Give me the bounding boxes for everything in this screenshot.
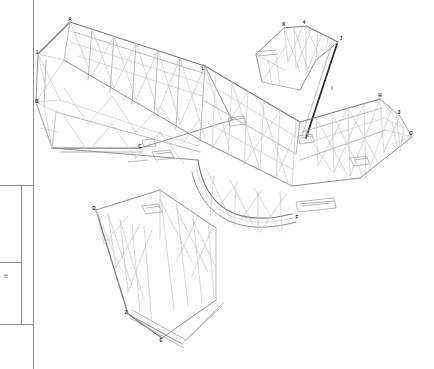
node-label-L: L: [202, 66, 205, 71]
node-label-B: B: [35, 99, 38, 104]
central-spine-assembly: [192, 66, 300, 232]
node-label-C: C: [138, 144, 141, 149]
node-label-K: K: [282, 22, 285, 27]
node-label-1: 1: [36, 50, 39, 55]
sw-leg-assembly: [96, 190, 224, 348]
node-label-J: J: [340, 36, 343, 41]
node-label-2: 2: [125, 310, 128, 315]
node-label-4: 4: [303, 20, 306, 25]
node-label-H: H: [378, 93, 381, 98]
node-label-I: I: [331, 86, 332, 91]
node-label-3: 3: [398, 110, 401, 115]
ne-wing-assembly: [256, 26, 338, 144]
east-wing-assembly: [292, 99, 412, 212]
node-label-G: G: [409, 131, 413, 136]
drawing-canvas: e .m { fill:none; stroke:#ababab; stroke…: [0, 0, 434, 369]
node-label-A: A: [68, 17, 71, 22]
nw-wing-assembly: [36, 22, 232, 164]
node-label-D: D: [92, 206, 95, 211]
node-label-F: F: [296, 215, 299, 220]
node-label-E: E: [159, 338, 162, 343]
truss-isometric-drawing: .m { fill:none; stroke:#ababab; stroke-w…: [0, 0, 434, 369]
